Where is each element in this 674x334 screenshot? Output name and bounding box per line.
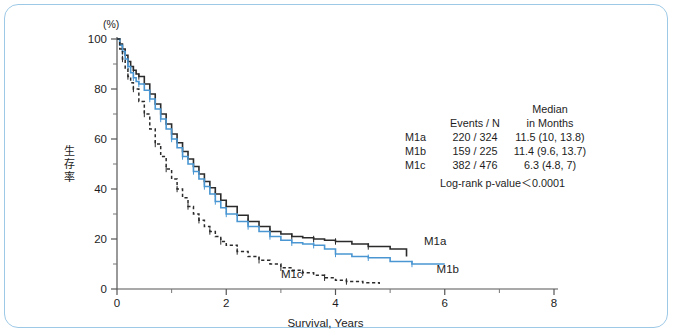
- series-label-m1a: M1a: [424, 235, 447, 247]
- survival-curve-m1b: [117, 39, 445, 264]
- stats-header-median-1: Median: [532, 103, 567, 115]
- stats-row-median: 6.3 (4.8, 7): [524, 159, 576, 171]
- y-tick-label: 0: [101, 283, 107, 295]
- x-tick-label: 2: [223, 297, 229, 309]
- x-tick-label: 8: [551, 297, 557, 309]
- survival-chart: 02468020406080100(%)Survival, Years生存率 M…: [5, 5, 669, 329]
- x-tick-label: 0: [114, 297, 120, 309]
- figure-frame: 02468020406080100(%)Survival, Years生存率 M…: [4, 4, 668, 328]
- y-tick-label: 100: [88, 33, 107, 45]
- stats-header-median-2: in Months: [527, 117, 574, 129]
- stats-row-median: 11.4 (9.6, 13.7): [514, 145, 586, 157]
- y-axis-title-char: 生: [64, 144, 75, 158]
- survival-curve-m1c: [117, 39, 379, 284]
- statistics-table: MedianEvents / Nin MonthsM1a220 / 32411.…: [405, 103, 586, 189]
- series-label-m1b: M1b: [437, 263, 459, 275]
- y-tick-label: 80: [94, 83, 107, 95]
- stats-row-events: 159 / 225: [452, 145, 497, 157]
- x-tick-label: 4: [332, 297, 339, 309]
- y-tick-label: 40: [94, 183, 107, 195]
- y-axis-title-char: 率: [64, 170, 75, 184]
- y-tick-label: 60: [94, 133, 107, 145]
- stats-row-group: M1b: [405, 145, 426, 157]
- y-unit-label: (%): [103, 18, 119, 30]
- stats-header-events: Events / N: [450, 117, 500, 129]
- x-tick-label: 6: [442, 297, 448, 309]
- survival-curves: [117, 39, 445, 285]
- stats-row-median: 11.5 (10, 13.8): [515, 131, 584, 143]
- series-label-m1c: M1c: [281, 268, 303, 280]
- y-axis-title-char: 存: [64, 157, 75, 171]
- chart-svg: 02468020406080100(%)Survival, Years生存率 M…: [5, 5, 669, 329]
- stats-row-group: M1c: [405, 159, 426, 171]
- y-tick-label: 20: [94, 233, 107, 245]
- axes: 02468020406080100(%)Survival, Years生存率: [64, 18, 559, 329]
- stats-row-events: 382 / 476: [452, 159, 497, 171]
- stats-pvalue: Log-rank p-value＜0.0001: [440, 177, 565, 189]
- stats-row-events: 220 / 324: [452, 131, 497, 143]
- x-axis-title: Survival, Years: [287, 317, 363, 329]
- stats-row-group: M1a: [405, 131, 426, 143]
